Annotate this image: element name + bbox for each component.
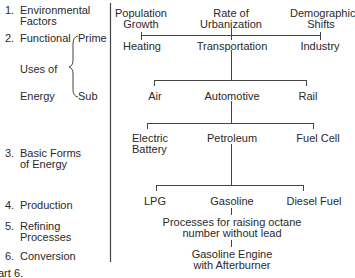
node-transportation: Transportation [190, 41, 274, 52]
node-demographic-shifts: Demographic Shifts [290, 8, 352, 30]
node-air: Air [140, 91, 170, 102]
node-rate-of-urbanization: Rate of Urbanization [196, 8, 266, 30]
node-petroleum: Petroleum [201, 133, 263, 144]
node-fuel-cell: Fuel Cell [290, 133, 346, 144]
node-gasoline-engine: Gasoline Engine with Afterburner [180, 249, 284, 271]
node-text: with Afterburner [180, 260, 284, 271]
node-diesel-fuel: Diesel Fuel [278, 196, 350, 207]
node-rail: Rail [293, 91, 323, 102]
node-lpg: LPG [140, 196, 170, 207]
node-population-growth: Population Growth [111, 8, 171, 30]
node-refining-processes: Processes for raising octane number with… [160, 217, 304, 239]
node-text: Battery [132, 144, 168, 155]
node-heating: Heating [116, 41, 168, 52]
node-gasoline: Gasoline [201, 196, 263, 207]
node-electric-battery: Electric Battery [132, 133, 168, 155]
node-automotive: Automotive [196, 91, 268, 102]
node-text: Growth [111, 19, 171, 30]
node-text: Urbanization [196, 19, 266, 30]
node-text: number without lead [160, 228, 304, 239]
brace-icon [69, 36, 78, 97]
node-industry: Industry [295, 41, 345, 52]
node-text: Shifts [290, 19, 352, 30]
